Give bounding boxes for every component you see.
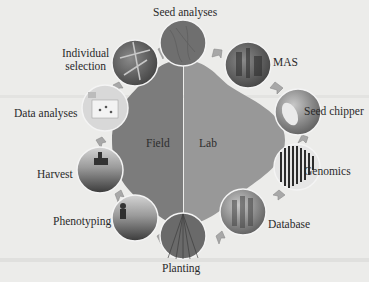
- step-label-seed-chipper: Seed chipper: [304, 105, 364, 118]
- step-label-planting: Planting: [162, 262, 200, 275]
- field-label: Field: [146, 137, 170, 149]
- step-label-seed-analyses: Seed analyses: [153, 6, 217, 19]
- individual-selection-photo: [112, 40, 158, 86]
- seed-analyses-photo: [160, 20, 206, 66]
- step-label-harvest: Harvest: [37, 168, 73, 181]
- breeding-cycle-diagram: [0, 0, 369, 282]
- step-label-individual-selection: Individual selection: [62, 47, 109, 73]
- arrow-icon: [212, 49, 222, 58]
- step-label-database: Database: [268, 218, 310, 231]
- step-label-phenotyping: Phenotyping: [53, 215, 111, 228]
- arrow-icon: [273, 190, 285, 200]
- arrow-icon: [216, 231, 225, 244]
- phenotyping-photo: [112, 195, 158, 241]
- arrow-icon: [298, 135, 308, 143]
- step-label-mas: MAS: [273, 56, 298, 69]
- step-label-individual-selection-line1: Individual: [62, 47, 109, 60]
- step-label-individual-selection-line2: selection: [62, 60, 109, 73]
- combine-silhouette: [94, 158, 108, 165]
- arrow-icon: [270, 82, 283, 94]
- step-label-data-analyses: Data analyses: [14, 107, 78, 120]
- lab-label: Lab: [199, 137, 217, 149]
- step-label-genomics: Genomics: [304, 165, 351, 178]
